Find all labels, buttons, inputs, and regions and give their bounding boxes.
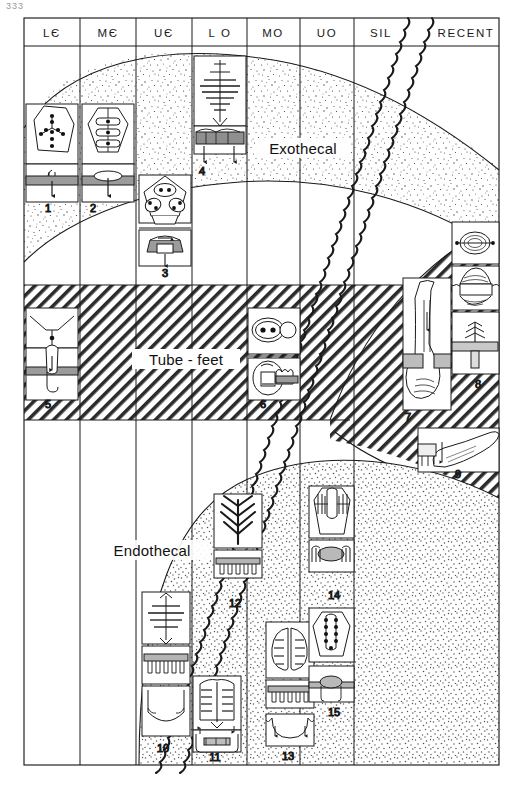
column-header-row: LЄ MЄ UЄ L O MO UO SIL RECENT <box>43 27 494 39</box>
specimen-13: 13 <box>266 622 314 762</box>
zone-label-tube-feet: Tube - feet <box>132 349 240 369</box>
column-header-5: UO <box>317 27 337 39</box>
specimen-2: 2 <box>82 104 134 214</box>
zone-label-exothecal-text: Exothecal <box>269 140 337 157</box>
specimen-3: 3 <box>139 175 191 279</box>
specimen-7-number: 7 <box>405 411 411 423</box>
specimen-10-number: 10 <box>157 742 169 754</box>
column-header-6: SIL <box>370 27 392 39</box>
specimen-12-number: 12 <box>229 597 241 609</box>
specimen-3-number: 3 <box>162 267 168 279</box>
column-header-8: RECENT <box>438 27 495 39</box>
specimen-6: 6 <box>248 308 300 410</box>
specimen-4-number: 4 <box>199 165 205 177</box>
specimen-2-number: 2 <box>90 202 96 214</box>
figure-root: 333 <box>0 0 519 787</box>
specimen-8: 8 <box>452 222 499 390</box>
specimen-6-number: 6 <box>260 398 266 410</box>
specimen-8-number: 8 <box>475 378 481 390</box>
specimen-14-number: 14 <box>328 589 340 601</box>
specimen-5: 5 <box>26 308 78 410</box>
column-header-1: MЄ <box>97 27 118 39</box>
specimen-1: 1 <box>26 104 78 214</box>
stratigraphic-range-chart: LЄ MЄ UЄ L O MO UO SIL RECENT <box>0 0 519 787</box>
column-header-4: MO <box>262 27 284 39</box>
specimen-1-number: 1 <box>45 202 51 214</box>
column-header-3: L O <box>209 27 232 39</box>
specimen-11-number: 11 <box>209 751 220 763</box>
zone-label-exothecal: Exothecal <box>256 138 350 158</box>
specimen-7: 7 <box>403 278 451 423</box>
specimen-9: 9 <box>418 428 499 480</box>
zone-label-tube-feet-text: Tube - feet <box>149 351 224 368</box>
column-header-2: UЄ <box>154 27 174 39</box>
zone-label-endothecal-text: Endothecal <box>113 542 190 559</box>
specimen-11: 11 <box>193 676 241 763</box>
specimen-5-number: 5 <box>45 398 51 410</box>
zone-label-endothecal: Endothecal <box>98 540 210 560</box>
specimen-13-number: 13 <box>282 750 294 762</box>
specimen-10: 10 <box>142 592 190 754</box>
specimen-9-number: 9 <box>455 468 461 480</box>
specimen-15-number: 15 <box>328 706 340 718</box>
column-header-0: LЄ <box>43 27 61 39</box>
